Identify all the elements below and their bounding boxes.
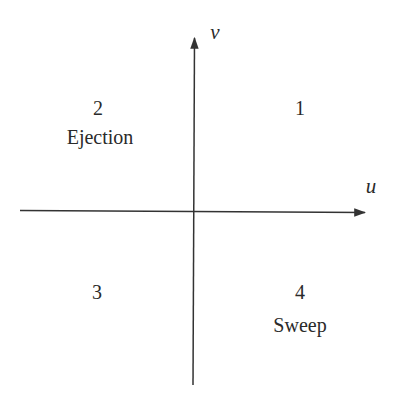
u-axis <box>20 211 365 213</box>
quadrant-diagram: v u 2 Ejection 1 3 4 Sweep <box>0 0 394 403</box>
quadrant-3-number: 3 <box>92 281 102 303</box>
u-axis-label: u <box>366 174 377 198</box>
quadrant-1-number: 1 <box>295 97 305 119</box>
quadrant-2-number: 2 <box>93 97 103 119</box>
diagram-svg: v u 2 Ejection 1 3 4 Sweep <box>0 0 394 403</box>
v-axis <box>193 38 195 385</box>
quadrant-2-name: Ejection <box>67 126 134 149</box>
quadrant-4-name: Sweep <box>273 314 326 337</box>
quadrant-4-number: 4 <box>295 281 305 303</box>
v-axis-label: v <box>210 20 220 44</box>
